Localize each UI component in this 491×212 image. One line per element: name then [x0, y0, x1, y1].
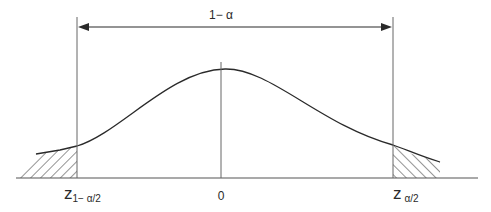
right-tail-shaded-region — [393, 145, 440, 178]
right-critical-subscript: α/2 — [405, 193, 420, 204]
arrowhead-left-icon — [78, 23, 89, 31]
right-critical-label: zα/2 — [393, 184, 419, 204]
left-critical-symbol: z — [64, 184, 73, 203]
density-curve — [36, 69, 440, 162]
center-zero-label: 0 — [218, 189, 225, 203]
left-critical-label: z1− α/2 — [64, 184, 101, 204]
arrowhead-right-icon — [381, 23, 392, 31]
right-critical-symbol: z — [393, 184, 402, 203]
left-critical-subscript: 1− α/2 — [73, 193, 102, 204]
interval-label: 1− α — [209, 8, 233, 22]
confidence-interval-diagram: 1− α 0 z1− α/2 zα/2 — [0, 0, 491, 212]
left-tail-shaded-region — [16, 146, 77, 178]
